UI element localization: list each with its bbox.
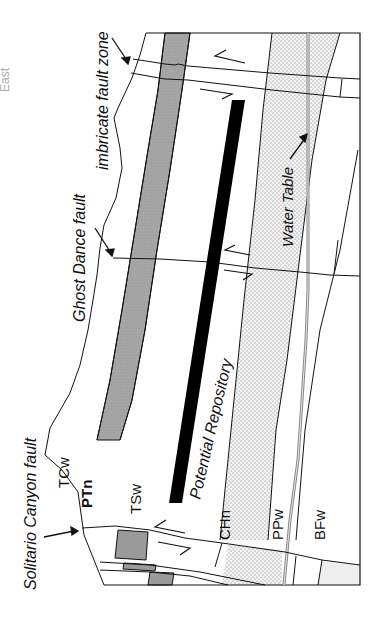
solitario-canyon-fault-label: Solitario Canyon fault	[22, 437, 39, 590]
imbricate-fault-zone-label: imbricate fault zone	[94, 31, 111, 170]
unit-chn-label: CHn	[216, 510, 233, 540]
unit-ppw-label: PPw	[269, 509, 286, 540]
water-table-label: Water Table	[279, 167, 296, 247]
block-ptn-offset-1	[115, 530, 148, 560]
unit-tcw-label: TCw	[55, 457, 72, 488]
block-bfw-offset	[318, 562, 360, 585]
east-label: East	[0, 67, 12, 92]
ghost-dance-fault-label: Ghost Dance fault	[71, 193, 88, 322]
unit-tsw-label: TSw	[127, 484, 144, 514]
unit-ptn-label: PTn	[78, 480, 95, 508]
cross-section-diagram: East	[0, 0, 374, 630]
unit-bfw-label: BFw	[311, 510, 328, 540]
block-chn-offset	[222, 545, 282, 585]
